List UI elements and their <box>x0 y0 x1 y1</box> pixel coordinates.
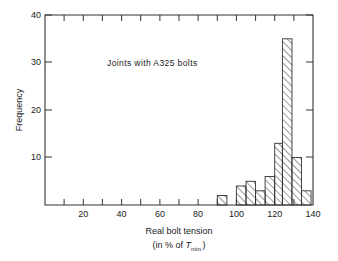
x-axis-label: Real bolt tension <box>145 226 212 236</box>
x-tick-label-20: 20 <box>78 209 88 219</box>
bar-123-127 <box>282 39 292 205</box>
y-tick-label-30: 30 <box>31 57 41 67</box>
bar-100-105 <box>236 186 246 205</box>
y-tick-label-20: 20 <box>31 105 41 115</box>
histogram-figure: 40 30 20 10 <box>0 0 338 261</box>
y-axis-label: Frequency <box>14 88 24 131</box>
bar-110-115 <box>256 191 266 205</box>
x-tick-label-40: 40 <box>117 209 127 219</box>
bar-105-110 <box>246 181 256 205</box>
x-axis-label-prefix: (in % of <box>153 240 186 250</box>
chart-svg: 40 30 20 10 <box>0 0 338 261</box>
y-axis-ticks <box>45 15 313 157</box>
histogram-bars <box>217 39 311 205</box>
y-tick-label-40: 40 <box>31 10 41 20</box>
bar-115-120 <box>265 177 275 206</box>
bar-132-137 <box>302 191 312 205</box>
x-tick-label-140: 140 <box>305 209 320 219</box>
x-axis-label-subscript: min. <box>191 246 203 252</box>
x-axis-label-suffix: ) <box>202 240 205 250</box>
y-tick-label-10: 10 <box>31 152 41 162</box>
plot-annotation: Joints with A325 bolts <box>107 58 198 68</box>
x-tick-labels: 20 40 60 80 100 120 140 <box>78 209 320 219</box>
x-tick-label-60: 60 <box>155 209 165 219</box>
bar-90-95 <box>217 196 227 206</box>
x-tick-label-100: 100 <box>229 209 244 219</box>
x-tick-label-120: 120 <box>267 209 282 219</box>
y-tick-labels: 40 30 20 10 <box>31 10 41 162</box>
x-tick-label-80: 80 <box>193 209 203 219</box>
bar-120-123 <box>275 143 283 205</box>
x-axis-label-line2: (in % of Tmin.) <box>153 240 206 252</box>
x-axis-ticks <box>64 15 294 205</box>
bar-127-132 <box>292 158 302 206</box>
